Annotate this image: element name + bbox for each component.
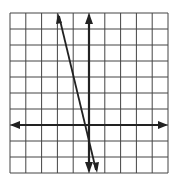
x-axis-right-arrow-icon [158,121,168,129]
y-axis-up-arrow-icon [85,13,93,24]
line-bottom-arrow-icon [93,162,99,173]
coordinate-plane [0,0,179,183]
x-axis-left-arrow-icon [10,121,20,129]
y-axis-down-arrow-icon [85,162,93,173]
